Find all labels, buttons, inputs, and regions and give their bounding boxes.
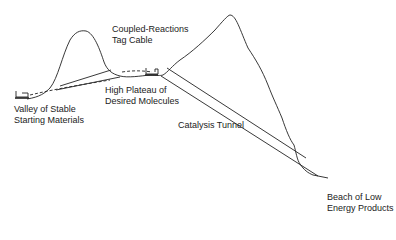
- cart-icon-valley: [15, 91, 29, 98]
- label-line: Energy Products: [327, 203, 394, 214]
- label-plateau: High Plateau of Desired Molecules: [105, 85, 179, 106]
- label-line: High Plateau of: [105, 85, 179, 96]
- label-catalysis-tunnel: Catalysis Tunnel: [178, 120, 244, 131]
- label-coupled-reactions-tag-cable: Coupled-Reactions Tag Cable: [112, 24, 189, 45]
- label-line: Catalysis Tunnel: [178, 120, 244, 131]
- cart-icon-plateau: [145, 68, 158, 75]
- label-beach: Beach of Low Energy Products: [327, 192, 394, 213]
- catalysis-tunnel-top: [167, 68, 306, 158]
- label-line: Tag Cable: [112, 35, 189, 46]
- label-line: Desired Molecules: [105, 96, 179, 107]
- label-line: Beach of Low: [327, 192, 394, 203]
- label-line: Valley of Stable: [14, 104, 84, 115]
- label-line: Coupled-Reactions: [112, 24, 189, 35]
- label-valley: Valley of Stable Starting Materials: [14, 104, 84, 125]
- label-line: Starting Materials: [14, 115, 84, 126]
